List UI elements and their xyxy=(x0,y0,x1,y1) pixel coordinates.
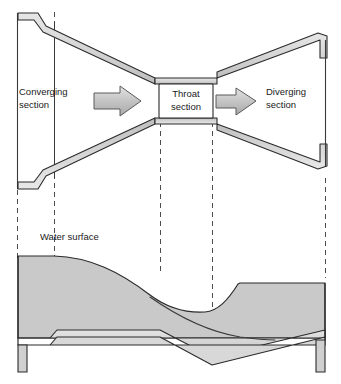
throat-section-label-line1: Throat xyxy=(172,88,200,99)
water-body xyxy=(18,256,325,338)
throat-section-label-line2: section xyxy=(171,101,201,112)
profile-view: Water surface xyxy=(18,231,325,372)
upper-converging-wall xyxy=(18,13,155,84)
venturi-flume-figure: Converging section Throat section Diverg… xyxy=(0,0,341,384)
upper-diverging-wall xyxy=(217,33,327,78)
lower-converging-wall xyxy=(18,118,155,189)
converging-section-label-line2: section xyxy=(19,99,49,110)
lower-diverging-wall xyxy=(217,124,327,169)
diverging-section-label-line1: Diverging xyxy=(266,86,306,97)
plan-view: Converging section Throat section Diverg… xyxy=(18,13,328,189)
diverging-section-label-line2: section xyxy=(266,99,296,110)
right-support-foot xyxy=(316,340,325,372)
downstream-flow-arrow xyxy=(216,88,256,115)
upper-throat-wall xyxy=(155,78,217,84)
upstream-flow-arrow xyxy=(94,86,141,116)
converging-section-label-line1: Converging xyxy=(19,86,68,97)
water-surface-label: Water surface xyxy=(40,231,99,242)
lower-throat-wall xyxy=(155,118,217,124)
flume-diagram-svg: Converging section Throat section Diverg… xyxy=(0,0,341,384)
left-support-foot xyxy=(18,345,27,372)
